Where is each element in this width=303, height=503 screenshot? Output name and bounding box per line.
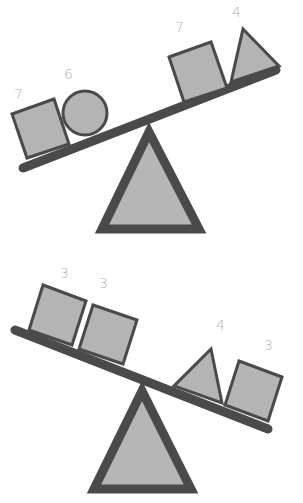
bottom-scale: 3 3 4 3 <box>15 265 282 489</box>
top-left-circle <box>63 91 107 135</box>
top-right-triangle-label: 4 <box>232 4 241 20</box>
bottom-fulcrum <box>94 391 191 489</box>
top-fulcrum <box>102 132 199 229</box>
top-right-square-label: 7 <box>175 19 184 35</box>
diagram-canvas: 7 6 7 4 3 3 4 3 <box>0 0 303 503</box>
top-left-circle-label: 6 <box>64 66 73 82</box>
bottom-right-triangle-label: 4 <box>216 317 225 333</box>
bottom-left-square-2-label: 3 <box>99 275 108 291</box>
top-scale: 7 6 7 4 <box>12 4 279 229</box>
bottom-right-square-label: 3 <box>264 337 273 353</box>
bottom-left-square-1-label: 3 <box>60 265 69 281</box>
top-left-square-label: 7 <box>14 86 23 102</box>
